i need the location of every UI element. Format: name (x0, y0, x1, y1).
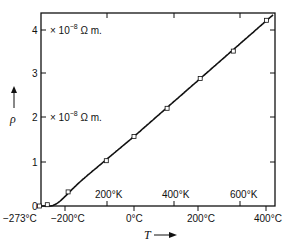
unit-annotation-top: × 10−8 Ω m. (50, 23, 102, 36)
data-point-marker (231, 49, 235, 53)
x-tick-m273: −273°C (3, 213, 37, 224)
k-tick-600: 600°K (230, 189, 258, 200)
x-tick-200: 200°C (187, 213, 215, 224)
y-tick-2: 2 (32, 112, 38, 123)
data-point-marker (66, 190, 70, 194)
x-axis-label: T (144, 228, 177, 242)
svg-text:× 10−8 Ω m.: × 10−8 Ω m. (50, 110, 102, 123)
x-tick-0: 0°C (126, 213, 143, 224)
data-point-marker (264, 18, 268, 22)
y-axis-label: ρ (9, 86, 17, 126)
arrow-right-icon (169, 232, 177, 238)
svg-text:× 10−8 Ω m.: × 10−8 Ω m. (50, 23, 102, 36)
y-tick-3: 3 (32, 68, 38, 79)
svg-text:T: T (144, 228, 152, 242)
k-tick-400: 400°K (162, 189, 190, 200)
arrow-up-icon (11, 86, 17, 93)
k-tick-200: 200°K (95, 189, 123, 200)
data-point-marker (104, 159, 108, 163)
data-point-marker (198, 76, 202, 80)
x-tick-m200: −200°C (51, 213, 85, 224)
x-tick-400: 400°C (254, 213, 282, 224)
data-point-marker (132, 135, 136, 139)
y-tick-1: 1 (32, 157, 38, 168)
data-point-marker (165, 106, 169, 110)
svg-text:ρ: ρ (9, 112, 16, 126)
y-tick-4: 4 (32, 25, 38, 36)
resistivity-chart: 4 3 2 1 0 × 10−8 Ω m. × 10−8 Ω m. ρ −273… (0, 0, 291, 252)
data-point-marker (37, 204, 41, 208)
unit-annotation-mid: × 10−8 Ω m. (50, 110, 102, 123)
data-point-marker (45, 203, 49, 207)
